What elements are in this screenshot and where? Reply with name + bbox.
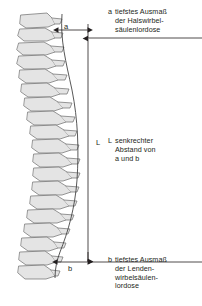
legend-line: a und b bbox=[115, 155, 156, 164]
legend-entry-a: a tiefstes Ausmaß der Halswirbel- säulen… bbox=[108, 8, 200, 34]
legend-text-a: tiefstes Ausmaß der Halswirbel- säulenlo… bbox=[115, 8, 167, 34]
legend-line: lordose bbox=[115, 282, 167, 291]
vertebra-t2 bbox=[27, 111, 75, 125]
vertebra-l2 bbox=[24, 223, 70, 237]
legend-key-b: b bbox=[108, 256, 115, 265]
dimension-label-a: a bbox=[64, 22, 68, 31]
legend-entry-l: L senkrechter Abstand von a und b bbox=[108, 137, 200, 163]
legend-key-a: a bbox=[108, 8, 115, 17]
vertebra-t6 bbox=[33, 167, 80, 181]
vertebra-c3 bbox=[18, 28, 63, 41]
dimension-label-l: L bbox=[96, 138, 100, 147]
dimension-label-b: b bbox=[68, 264, 72, 273]
legend-text-l: senkrechter Abstand von a und b bbox=[115, 137, 156, 163]
vertebra-c6 bbox=[19, 69, 67, 83]
vertebra-l3 bbox=[21, 237, 66, 251]
vertebra-t1 bbox=[24, 97, 72, 111]
spine-lordosis-figure: a b L a tiefstes Ausmaß der Halswirbel- … bbox=[0, 0, 202, 306]
legend-text-b: tiefstes Ausmaß der Lenden- wirbelsäulen… bbox=[115, 256, 167, 291]
vertebra-c7 bbox=[21, 83, 69, 97]
vertebra-t8 bbox=[30, 195, 77, 209]
legend-entry-b: b tiefstes Ausmaß der Lenden- wirbelsäul… bbox=[108, 256, 200, 291]
legend-line: säulenlordose bbox=[115, 26, 167, 35]
legend-key-l: L bbox=[108, 137, 115, 146]
vertebra-c4 bbox=[17, 42, 64, 55]
vertebra-c5 bbox=[17, 55, 65, 69]
vertebra-t9 bbox=[27, 209, 74, 223]
vertebra-t4 bbox=[32, 139, 79, 153]
vertebra-t3 bbox=[30, 125, 77, 139]
vertebra-t5 bbox=[33, 153, 80, 167]
vertebra-l5 bbox=[18, 265, 60, 279]
vertebral-column bbox=[17, 13, 80, 279]
vertebra-c2 bbox=[20, 13, 62, 28]
vertebra-t7 bbox=[32, 181, 79, 195]
